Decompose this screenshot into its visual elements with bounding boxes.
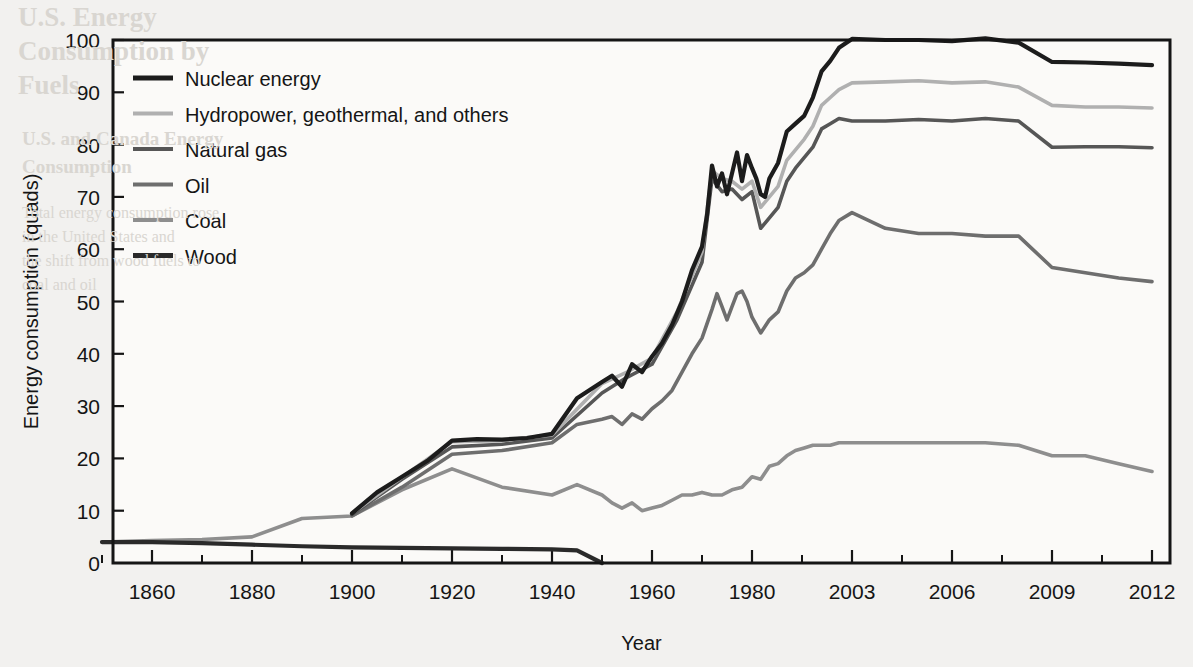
legend-label-5: Wood <box>185 246 237 268</box>
y-tick-label: 20 <box>77 447 100 470</box>
y-tick-label: 100 <box>65 29 100 52</box>
plot-area: 0102030405060708090100186018801900192019… <box>20 29 1175 654</box>
x-tick-label: 2006 <box>929 580 976 603</box>
x-tick-label: 1940 <box>529 580 576 603</box>
x-axis-title: Year <box>621 632 662 654</box>
x-tick-label: 1860 <box>129 580 176 603</box>
x-tick-label: 1920 <box>429 580 476 603</box>
x-tick-label: 2003 <box>829 580 876 603</box>
line-chart: 0102030405060708090100186018801900192019… <box>0 0 1193 667</box>
y-tick-label: 10 <box>77 500 100 523</box>
legend-label-0: Nuclear energy <box>185 68 321 90</box>
y-tick-label: 80 <box>77 134 100 157</box>
y-tick-label: 40 <box>77 343 100 366</box>
y-tick-label: 90 <box>77 81 100 104</box>
x-tick-label: 1900 <box>329 580 376 603</box>
y-tick-label: 60 <box>77 238 100 261</box>
x-tick-label: 1880 <box>229 580 276 603</box>
x-tick-label: 2012 <box>1129 580 1176 603</box>
y-tick-label: 50 <box>77 291 100 314</box>
legend-label-4: Coal <box>185 210 226 232</box>
y-tick-label: 70 <box>77 186 100 209</box>
legend-label-2: Natural gas <box>185 139 287 161</box>
energy-consumption-figure: U.S. Energy Consumption by Fuels U.S. an… <box>0 0 1193 667</box>
y-tick-label: 0 <box>88 552 100 575</box>
x-tick-label: 2009 <box>1029 580 1076 603</box>
y-tick-label: 30 <box>77 395 100 418</box>
y-axis-title: Energy consumption (quads) <box>20 174 42 430</box>
legend-label-3: Oil <box>185 175 209 197</box>
legend-label-1: Hydropower, geothermal, and others <box>185 104 509 126</box>
x-tick-label: 1980 <box>729 580 776 603</box>
x-tick-label: 1960 <box>629 580 676 603</box>
